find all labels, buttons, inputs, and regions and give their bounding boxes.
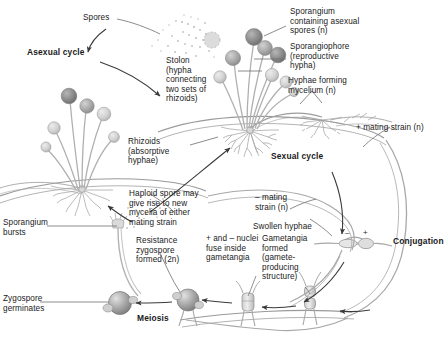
label-plus-mating-strain: + mating strain (n)	[356, 123, 424, 133]
rhizoid-cluster-left	[0, 182, 113, 216]
flow-arrows	[88, 29, 370, 312]
label-gametangia-formed: Gametangia formed (gamete- producing str…	[262, 234, 307, 282]
zygospore-germinating	[103, 292, 138, 315]
label-asexual-cycle: Asexual cycle	[27, 48, 85, 58]
label-sporangium-containing-asexual-spores: Sporangium containing asexual spores (n)	[290, 7, 359, 36]
sporangia-left	[41, 88, 119, 152]
label-minus-mating-strain: – mating strain (n)	[255, 193, 288, 212]
label-haploid-spore: Haploid spore may give rise to new mycel…	[129, 189, 199, 227]
label-plus-sign: +	[363, 228, 368, 237]
label-swollen-hyphae: Swollen hyphae	[253, 222, 312, 232]
label-nuclei-fuse: + and – nuclei fuse inside gametangia	[206, 234, 258, 263]
label-rhizoids: Rhizoids (absorptive hyphae)	[128, 137, 169, 166]
label-sporangiophore: Sporangiophore (reproductive hypha)	[290, 42, 349, 71]
label-minus-sign: –	[345, 228, 349, 237]
label-resistance-zygospore: Resistance zygospore formed (2n)	[136, 236, 179, 265]
label-sporangium-bursts: Sporangium bursts	[3, 218, 48, 237]
label-zygospore-germinates: Zygospore germinates	[3, 294, 44, 313]
label-meiosis: Meiosis	[137, 314, 169, 324]
label-hyphae-forming-mycelium: Hyphae forming mycelium (n)	[288, 76, 347, 95]
label-spores: Spores	[83, 13, 109, 23]
label-conjugation: Conjugation	[393, 237, 444, 247]
label-stolon: Stolon (hypha connecting two sets of rhi…	[166, 56, 206, 104]
label-sexual-cycle: Sexual cycle	[271, 152, 323, 162]
